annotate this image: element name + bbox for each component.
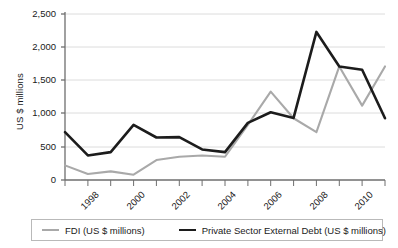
legend-entry-private-sector-external-debt: Private Sector External Debt (US $ milli…	[179, 225, 386, 236]
line-chart: US $ millions 2,500 2,000 1,500 1,000 50…	[0, 0, 398, 248]
chart-legend: FDI (US $ millions) Private Sector Exter…	[31, 219, 383, 241]
legend-label: Private Sector External Debt (US $ milli…	[202, 225, 386, 236]
plot-area	[0, 0, 398, 248]
x-axis-line	[65, 180, 385, 186]
y-axis-line	[61, 12, 65, 180]
legend-swatch-icon	[179, 229, 196, 231]
series-line-fdi	[65, 66, 385, 174]
legend-entry-fdi: FDI (US $ millions)	[42, 225, 145, 236]
gridlines	[65, 14, 385, 147]
legend-swatch-icon	[42, 229, 59, 231]
series-line-private-sector-external-debt	[65, 32, 385, 155]
legend-label: FDI (US $ millions)	[65, 225, 145, 236]
